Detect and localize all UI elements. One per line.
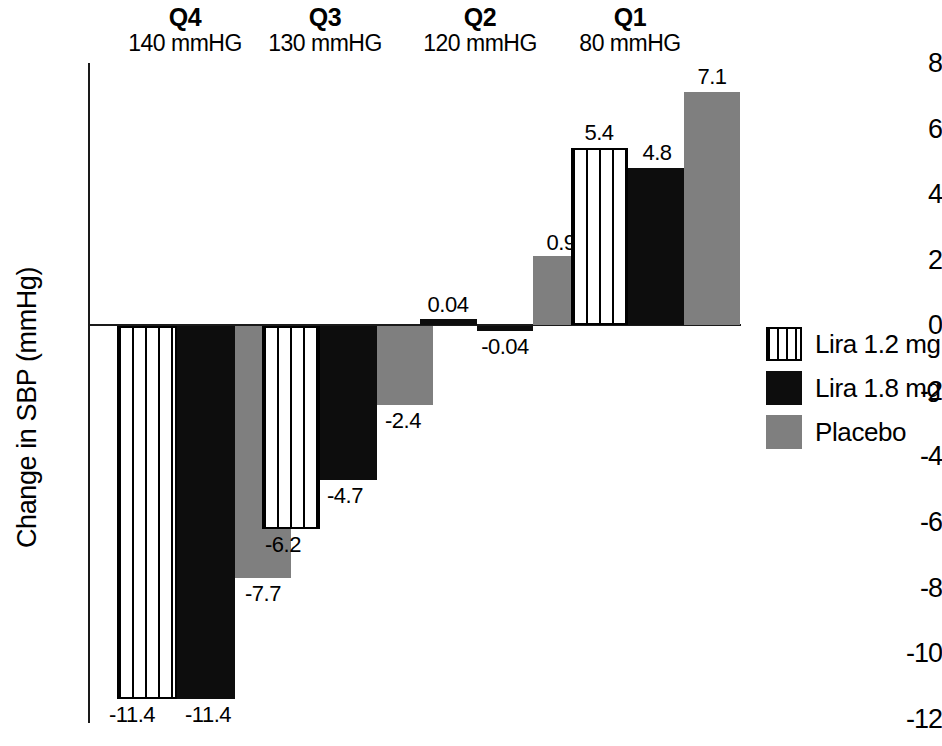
legend-swatch-striped-icon	[766, 327, 802, 361]
legend-swatch-gray-icon	[766, 415, 802, 449]
y-tick-label: 2	[870, 245, 942, 276]
legend-swatch-black-icon	[766, 371, 802, 405]
bar-value-q3-lira18: -4.7	[300, 483, 390, 509]
y-axis-line	[88, 63, 90, 723]
group-sublabel: 120 mmHG	[400, 31, 560, 56]
bar-value-q1-lira18: 4.8	[612, 140, 702, 166]
bar-q4-lira18	[177, 326, 235, 699]
bar-q2-lira18	[477, 326, 533, 331]
legend-label: Lira 1.2 mg	[815, 329, 941, 360]
bar-q1-placebo	[684, 92, 740, 325]
bar-value-q4-lira18: -11.4	[163, 702, 253, 728]
group-header-q4: Q4 140 mmHG	[105, 4, 265, 56]
group-name: Q3	[245, 4, 405, 31]
bar-q3-lira18	[320, 326, 377, 480]
y-tick-label: -6	[870, 507, 942, 538]
bar-q3-placebo	[377, 326, 433, 405]
bar-q4-lira12	[117, 326, 177, 699]
legend-label: Placebo	[815, 417, 906, 448]
legend-item-placebo: Placebo	[766, 410, 941, 454]
bar-value-q4-placebo: -7.7	[218, 581, 308, 607]
y-tick-label: 6	[870, 114, 942, 145]
bar-q1-lira18	[628, 168, 684, 325]
bar-q2-lira12	[420, 319, 477, 325]
y-tick-label: 4	[870, 179, 942, 210]
group-name: Q4	[105, 4, 265, 31]
group-header-q1: Q1 80 mmHG	[550, 4, 710, 56]
bar-chart-figure: Q4 140 mmHG Q3 130 mmHG Q2 120 mmHG Q1 8…	[0, 0, 942, 746]
y-tick-label: -12	[870, 704, 942, 735]
y-tick-label: -10	[870, 638, 942, 669]
group-name: Q2	[400, 4, 560, 31]
group-name: Q1	[550, 4, 710, 31]
group-sublabel: 130 mmHG	[245, 31, 405, 56]
group-header-q2: Q2 120 mmHG	[400, 4, 560, 56]
bar-value-q2-lira12: 0.04	[403, 292, 493, 318]
group-sublabel: 80 mmHG	[550, 31, 710, 56]
y-tick-label: -8	[870, 573, 942, 604]
y-tick-label: 8	[870, 48, 942, 79]
legend-item-lira-1-8-mg: Lira 1.8 mg	[766, 366, 941, 410]
legend-item-lira-1-2-mg: Lira 1.2 mg	[766, 322, 941, 366]
bar-value-q3-placebo: -2.4	[358, 408, 448, 434]
chart-legend: Lira 1.2 mg Lira 1.8 mg Placebo	[766, 322, 941, 454]
group-header-q3: Q3 130 mmHG	[245, 4, 405, 56]
bar-value-q3-lira12: -6.2	[238, 532, 328, 558]
legend-label: Lira 1.8 mg	[815, 373, 941, 404]
y-axis-title: Change in SBP (mmHg)	[12, 218, 43, 598]
bar-q1-lira12	[571, 148, 628, 325]
bar-value-q1-placebo: 7.1	[667, 64, 757, 90]
group-sublabel: 140 mmHG	[105, 31, 265, 56]
bar-value-q2-lira18: -0.04	[460, 334, 550, 360]
